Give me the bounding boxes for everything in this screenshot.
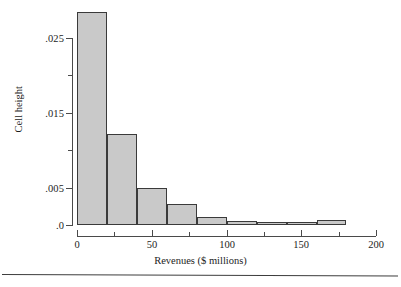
y-axis-tick-major — [66, 113, 72, 114]
x-axis-tick-major — [376, 230, 377, 236]
x-axis-tick-major — [77, 230, 78, 236]
x-axis-title: Revenues ($ millions) — [0, 256, 401, 267]
histogram-bar — [77, 12, 107, 225]
x-axis-tick-major — [152, 230, 153, 236]
y-axis-tick-major — [66, 188, 72, 189]
x-axis-line — [77, 236, 376, 237]
histogram-bar — [137, 188, 167, 225]
x-axis-tick-major — [301, 230, 302, 236]
x-axis-tick-label: 50 — [147, 240, 158, 251]
histogram-bar — [287, 222, 317, 225]
y-axis-tick-label: .0 — [56, 221, 64, 232]
histogram-bar — [107, 134, 137, 225]
x-axis-tick-label: 200 — [368, 240, 384, 251]
plot-area: .025 .015 .005 .0 Cell height 0 50 100 1… — [0, 0, 401, 287]
y-axis-tick-minor — [68, 75, 72, 76]
y-axis-tick-label: .015 — [45, 109, 64, 120]
y-axis-tick-label: .005 — [45, 184, 64, 195]
histogram-bar — [317, 220, 346, 225]
x-axis-tick-label: 100 — [219, 240, 235, 251]
histogram-bar — [227, 221, 257, 225]
x-axis-tick-label: 0 — [74, 240, 79, 251]
histogram-bar — [197, 217, 227, 225]
x-axis-tick-minor — [114, 232, 115, 236]
x-axis-tick-label: 150 — [293, 240, 309, 251]
y-axis-tick-minor — [68, 150, 72, 151]
histogram-bar — [167, 204, 197, 225]
x-axis-tick-major — [227, 230, 228, 236]
y-axis-line — [72, 38, 73, 226]
histogram-bar — [257, 222, 287, 225]
x-axis-tick-minor — [189, 232, 190, 236]
y-axis-tick-label: .025 — [45, 34, 64, 45]
histogram-figure: .025 .015 .005 .0 Cell height 0 50 100 1… — [0, 0, 401, 287]
x-axis-tick-minor — [264, 232, 265, 236]
y-axis-title: Cell height — [14, 63, 25, 155]
y-axis-tick-major — [66, 38, 72, 39]
y-axis-tick-major — [66, 225, 72, 226]
x-axis-tick-minor — [339, 232, 340, 236]
